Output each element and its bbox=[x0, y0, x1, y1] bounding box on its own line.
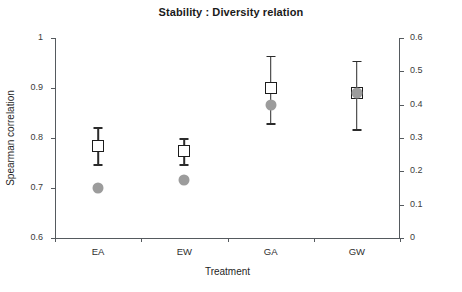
error-bar-cap bbox=[352, 129, 361, 131]
data-point-circle bbox=[93, 183, 104, 194]
data-point-square bbox=[178, 145, 190, 157]
y-axis-right-tick bbox=[400, 205, 404, 206]
data-point-square bbox=[92, 140, 104, 152]
error-bar-cap bbox=[266, 123, 275, 125]
error-bar-cap bbox=[180, 138, 189, 140]
y-axis-left-tick bbox=[51, 188, 55, 189]
data-point-circle bbox=[265, 99, 276, 110]
error-bar-cap bbox=[180, 164, 189, 166]
y-axis-right-tick bbox=[400, 138, 404, 139]
y-axis-left-tick-label: 0.6 bbox=[0, 232, 43, 242]
error-bar-cap bbox=[94, 164, 103, 166]
y-axis-right-tick-label: 0.5 bbox=[410, 65, 423, 75]
y-axis-right-tick bbox=[400, 71, 404, 72]
y-axis-left-tick bbox=[51, 138, 55, 139]
y-axis-right-tick-label: 0.3 bbox=[410, 132, 423, 142]
y-axis-right-tick bbox=[400, 105, 404, 106]
data-point-circle bbox=[179, 175, 190, 186]
x-axis-category-label: EW bbox=[164, 246, 204, 257]
chart-title: Stability : Diversity relation bbox=[0, 6, 462, 18]
y-axis-left-title: Spearman correlation bbox=[5, 58, 16, 218]
x-axis-category-label: GA bbox=[251, 246, 291, 257]
y-axis-right-tick-label: 0.6 bbox=[410, 32, 423, 42]
x-axis-tick bbox=[55, 238, 56, 242]
data-point-circle bbox=[351, 88, 362, 99]
error-bar-cap bbox=[266, 56, 275, 58]
y-axis-right-tick-label: 0 bbox=[410, 232, 415, 242]
y-axis-left-tick-label: 1 bbox=[0, 32, 43, 42]
error-bar-cap bbox=[352, 61, 361, 63]
data-point-square bbox=[265, 82, 277, 94]
x-axis-tick bbox=[400, 238, 401, 242]
chart-figure: Stability : Diversity relation 0.60.70.8… bbox=[0, 0, 462, 292]
x-axis-category-label: GW bbox=[337, 246, 377, 257]
x-axis-title: Treatment bbox=[55, 266, 400, 277]
plot-area: 0.60.70.80.91 00.10.20.30.40.50.6 EAEWGA… bbox=[55, 38, 400, 238]
error-bar-cap bbox=[94, 127, 103, 129]
x-axis-tick bbox=[141, 238, 142, 242]
y-axis-right-tick-label: 0.1 bbox=[410, 199, 423, 209]
y-axis-right-tick bbox=[400, 171, 404, 172]
y-axis-left-tick bbox=[51, 88, 55, 89]
x-axis-category-label: EA bbox=[78, 246, 118, 257]
y-axis-left-tick bbox=[51, 38, 55, 39]
y-axis-left-line bbox=[55, 38, 56, 238]
x-axis-tick bbox=[314, 238, 315, 242]
y-axis-right-tick bbox=[400, 38, 404, 39]
x-axis-tick bbox=[228, 238, 229, 242]
y-axis-right-tick-label: 0.2 bbox=[410, 165, 423, 175]
y-axis-right-tick-label: 0.4 bbox=[410, 99, 423, 109]
